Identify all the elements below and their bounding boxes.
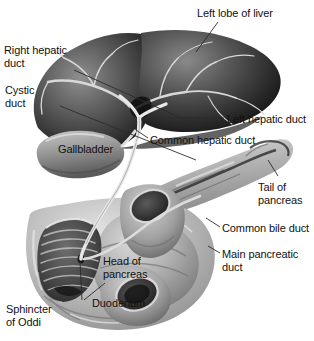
label-common-hepatic-duct: Common hepatic duct xyxy=(150,134,255,147)
label-left-hepatic-duct: Left hepatic duct xyxy=(227,113,306,126)
label-common-bile-duct: Common bile duct xyxy=(222,222,309,235)
label-left-lobe-of-liver: Left lobe of liver xyxy=(197,7,273,20)
label-cystic-duct: Cystic duct xyxy=(5,84,34,109)
label-head-of-pancreas: Head of pancreas xyxy=(103,255,147,280)
label-sphincter-of-oddi: Sphincter of Oddi xyxy=(6,303,52,328)
label-gallbladder: Gallbladder xyxy=(58,143,113,156)
label-duodenum: Duodenum xyxy=(92,297,145,310)
anatomy-figure: Left lobe of liverRight hepatic ductCyst… xyxy=(0,0,314,341)
label-tail-of-pancreas: Tail of pancreas xyxy=(258,181,302,206)
label-main-pancreatic-duct: Main pancreatic duct xyxy=(222,248,298,273)
label-right-hepatic-duct: Right hepatic duct xyxy=(4,44,67,69)
